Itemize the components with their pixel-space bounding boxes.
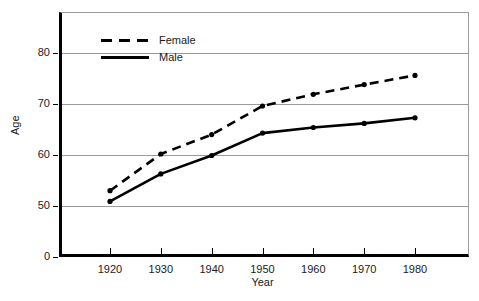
gridline xyxy=(62,155,468,156)
legend-swatch-solid-icon xyxy=(101,56,149,59)
y-tick-label: 50 xyxy=(8,200,50,211)
x-tick-mark xyxy=(415,248,416,254)
y-tick-mark xyxy=(53,53,58,54)
y-tick-label: 60 xyxy=(8,149,50,160)
y-tick-mark xyxy=(53,155,58,156)
y-tick-mark xyxy=(53,206,58,207)
y-tick-mark xyxy=(53,104,58,105)
y-tick-label: 70 xyxy=(8,98,50,109)
gridline xyxy=(62,104,468,105)
x-tick-mark xyxy=(364,248,365,254)
x-tick-mark xyxy=(263,248,264,254)
x-tick-mark xyxy=(313,248,314,254)
x-tick-mark xyxy=(110,248,111,254)
gridline xyxy=(62,206,468,207)
legend-swatch-dashed-icon xyxy=(101,39,149,42)
line-chart: Age 807060500 19201930194019501960197019… xyxy=(0,0,479,301)
x-axis-title: Year xyxy=(233,276,293,288)
legend-label-male: Male xyxy=(159,49,183,65)
legend-label-female: Female xyxy=(159,32,196,48)
x-tick-label: 1980 xyxy=(385,264,445,275)
y-axis-title: Age xyxy=(9,115,21,135)
plot-area xyxy=(59,12,469,257)
x-tick-mark xyxy=(161,248,162,254)
x-tick-mark xyxy=(212,248,213,254)
y-tick-label: 80 xyxy=(8,47,50,58)
gridline xyxy=(62,53,468,54)
y-tick-label: 0 xyxy=(8,251,50,262)
y-tick-mark xyxy=(53,257,58,258)
